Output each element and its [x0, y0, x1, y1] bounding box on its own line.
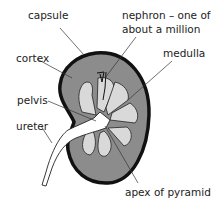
- label-capsule: capsule: [28, 9, 68, 22]
- label-ureter: ureter: [16, 120, 48, 133]
- label-apex-of-pyramid: apex of pyramid: [125, 186, 211, 199]
- label-medulla: medulla: [163, 47, 205, 60]
- label-cortex: cortex: [16, 52, 49, 65]
- label-nephron-line1: nephron – one of: [122, 9, 211, 22]
- label-nephron-line2: about a million: [122, 23, 200, 36]
- kidney-diagram: capsule nephron – one of about a million…: [0, 0, 217, 213]
- label-pelvis: pelvis: [17, 94, 48, 107]
